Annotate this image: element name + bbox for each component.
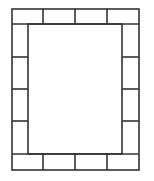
outer-border bbox=[12, 9, 139, 170]
tile-frame-diagram bbox=[0, 0, 154, 181]
inner-border bbox=[28, 24, 122, 154]
